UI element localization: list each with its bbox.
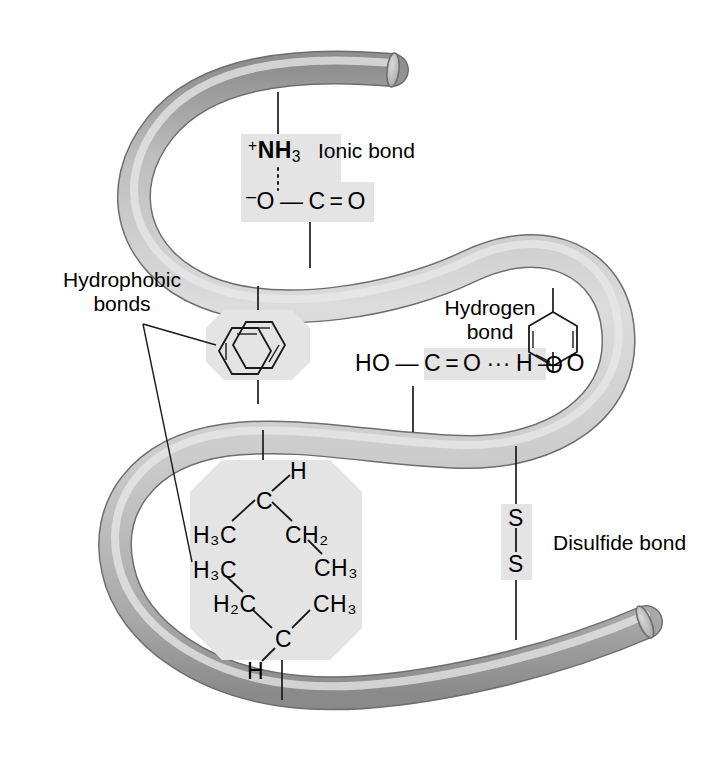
hydrogen-bond-line-2: bond <box>467 320 514 343</box>
leucine-bottom-left-ch3: H₃C <box>193 557 237 583</box>
disulfide-s-bottom: S <box>508 551 524 577</box>
leader-to-aromatic <box>143 324 216 345</box>
hydrogen-bond-label: Hydrogenbond <box>430 296 550 344</box>
hydrophobic-bonds-label: Hydrophobicbonds <box>32 268 212 316</box>
hb-dots: ··· <box>486 350 510 376</box>
carboxylate-o1: O <box>256 188 274 214</box>
leucine-top-left-ch3: H₃C <box>193 522 237 548</box>
hb-c: C <box>424 350 441 376</box>
leucine-top-right-ch3: CH₃ <box>314 555 358 581</box>
highlight-boxes <box>190 134 546 660</box>
hydrophobic-line-1: Hydrophobic <box>63 268 181 291</box>
leucine-bottom-right-ch3: CH₃ <box>313 591 357 617</box>
nh3-label: NH <box>258 137 292 163</box>
carboxylate-o2: O <box>347 188 365 214</box>
protein-structure-figure: Ionic bond +NH3 –O—C=O Hydrogenbond HO—C… <box>0 0 720 768</box>
leucine-bottom-left-ch2: H₂C <box>213 591 257 617</box>
hb-ho: HO <box>355 350 391 376</box>
leucine-bottom-c: C <box>275 626 292 652</box>
carboxylate-c: C <box>308 188 325 214</box>
leucine-top-c: C <box>256 488 273 514</box>
hb-o: O <box>463 350 481 376</box>
ionic-nh3-group: +NH3 <box>248 137 301 166</box>
disulfide-bond-label: Disulfide bond <box>553 531 686 555</box>
carboxylate-bond-1: — <box>280 188 304 214</box>
carboxylate-double-bond: = <box>330 188 344 214</box>
leucine-top-right-ch2: CH₂ <box>285 522 329 548</box>
hb-bond-1: — <box>396 350 420 376</box>
figure-canvas <box>0 0 720 768</box>
nh3-subscript: 3 <box>292 148 301 165</box>
phenol-oxygen: O <box>545 352 563 378</box>
hydrophobic-line-2: bonds <box>93 292 150 315</box>
leucine-top-h: H <box>290 458 307 484</box>
ionic-bond-label: Ionic bond <box>318 139 415 163</box>
ionic-carboxylate-group: –O—C=O <box>246 186 366 214</box>
hb-h: H <box>516 350 533 376</box>
o-minus-charge: – <box>246 186 256 206</box>
hydrogen-bond-line-1: Hydrogen <box>444 296 535 319</box>
hb-double-bond: = <box>445 350 459 376</box>
disulfide-s-top: S <box>508 505 524 531</box>
hb-o2: O <box>567 350 585 376</box>
leucine-bottom-h: H <box>247 658 264 684</box>
nh3-charge: + <box>248 137 258 154</box>
